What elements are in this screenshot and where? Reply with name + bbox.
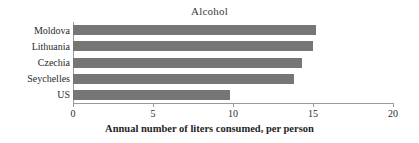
bar-row xyxy=(73,56,393,70)
x-tick-label-0: 0 xyxy=(58,108,88,119)
x-tick-label-20: 20 xyxy=(378,108,408,119)
bar-row xyxy=(73,72,393,86)
bar-czechia xyxy=(73,58,302,68)
bar-seychelles xyxy=(73,74,294,84)
bar-us xyxy=(73,90,230,100)
bar-row xyxy=(73,23,393,37)
category-label-seychelles: Seychelles xyxy=(2,74,70,84)
x-tick-mark-20 xyxy=(393,103,394,107)
x-tick-mark-5 xyxy=(153,103,154,107)
category-label-czechia: Czechia xyxy=(2,58,70,68)
bar-chart-figure: Alcohol MoldovaLithuaniaCzechiaSeychelle… xyxy=(0,0,419,143)
x-tick-label-5: 5 xyxy=(138,108,168,119)
bar-row xyxy=(73,88,393,102)
x-tick-label-15: 15 xyxy=(298,108,328,119)
category-axis-labels: MoldovaLithuaniaCzechiaSeychellesUS xyxy=(0,22,70,103)
chart-title: Alcohol xyxy=(0,5,419,17)
bar-moldova xyxy=(73,25,316,35)
x-tick-label-10: 10 xyxy=(218,108,248,119)
x-tick-mark-15 xyxy=(313,103,314,107)
x-tick-mark-0 xyxy=(73,103,74,107)
bar-row xyxy=(73,39,393,53)
plot-area xyxy=(73,22,393,103)
category-label-lithuania: Lithuania xyxy=(2,42,70,52)
category-label-us: US xyxy=(2,90,70,100)
bar-lithuania xyxy=(73,41,313,51)
category-label-moldova: Moldova xyxy=(2,26,70,36)
x-axis-title: Annual number of liters consumed, per pe… xyxy=(0,123,419,134)
x-tick-mark-10 xyxy=(233,103,234,107)
